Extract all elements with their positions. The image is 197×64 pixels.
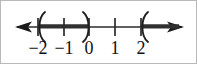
tick-label-negative-2: −2	[28, 39, 47, 57]
number-line-figure: −2 −1 0 1 2	[0, 0, 197, 64]
tick-label-1: 1	[111, 39, 120, 57]
tick-label-0: 0	[85, 39, 94, 57]
tick-label-negative-1: −1	[54, 39, 73, 57]
tick-label-2: 2	[137, 39, 146, 57]
